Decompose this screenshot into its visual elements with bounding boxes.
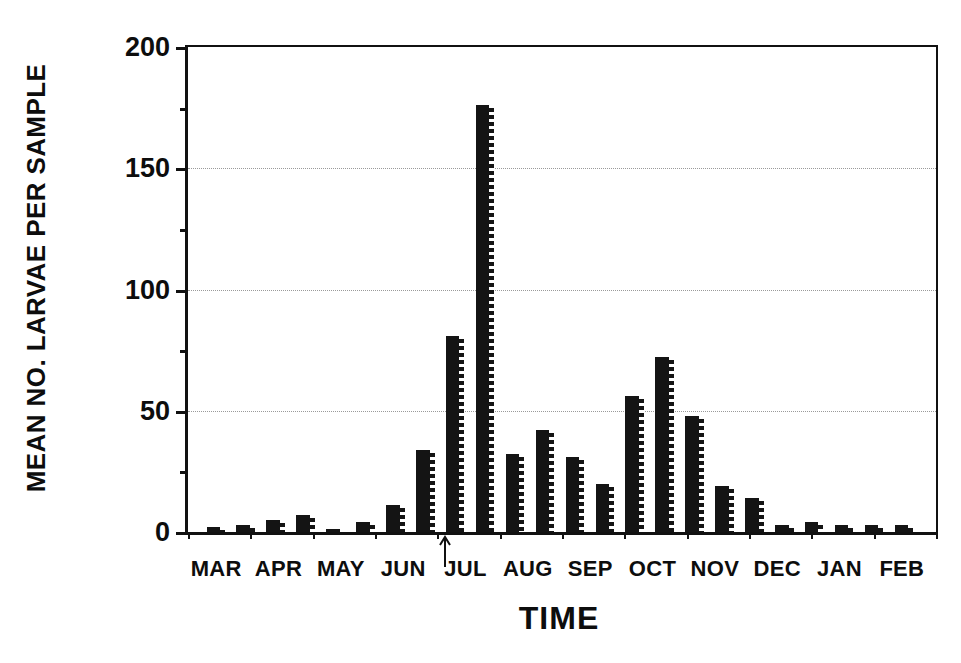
x-tick-label-nov: NOV: [691, 556, 740, 582]
bar-bevel: [818, 522, 823, 532]
bar-bevel: [669, 357, 674, 532]
x-tick-label-aug: AUG: [503, 556, 553, 582]
x-tick-label-sep: SEP: [568, 556, 613, 582]
bar: [476, 105, 495, 532]
y-tick-mark: [176, 290, 188, 293]
y-tick-mark: [176, 168, 188, 171]
x-tick-label-oct: OCT: [629, 556, 676, 582]
bar: [386, 505, 405, 532]
bar-bevel: [908, 525, 913, 532]
y-tick-mark-minor: [180, 108, 188, 111]
x-tick-mark: [811, 532, 813, 539]
bar: [326, 529, 345, 532]
y-tick-label: 50: [140, 395, 170, 426]
y-tick-label: 100: [125, 274, 170, 305]
bar: [236, 525, 255, 532]
bar: [715, 486, 734, 532]
x-tick-mark: [250, 532, 252, 539]
x-tick-mark: [500, 532, 502, 539]
y-tick-mark: [176, 411, 188, 414]
x-tick-mark: [874, 532, 876, 539]
y-tick-label: 0: [155, 517, 170, 548]
y-tick-label: 150: [125, 153, 170, 184]
x-tick-mark: [562, 532, 564, 539]
bar-bevel: [250, 525, 255, 532]
y-axis-title: MEAN NO. LARVAE PER SAMPLE: [14, 8, 58, 548]
bar: [296, 515, 315, 532]
bar: [446, 336, 465, 532]
x-tick-label-jul: JUL: [444, 556, 486, 582]
bar-bevel: [639, 396, 644, 532]
y-tick-mark: [176, 532, 188, 535]
x-tick-label-jun: JUN: [381, 556, 426, 582]
bar-bevel: [759, 498, 764, 532]
bar-bevel: [459, 336, 464, 532]
y-tick-mark-minor: [180, 471, 188, 474]
bar-bevel: [609, 484, 614, 533]
x-tick-mark: [749, 532, 751, 539]
x-tick-mark: [188, 532, 190, 539]
bar-bevel: [549, 430, 554, 532]
bar: [895, 525, 914, 532]
x-axis-tick-labels: MARAPRMAYJUNJULAUGSEPOCTNOVDECJANFEB: [185, 556, 933, 590]
bar-bevel: [400, 505, 405, 532]
bar: [566, 457, 585, 532]
bar-bevel: [430, 450, 435, 532]
bar: [356, 522, 375, 532]
bar-bevel: [579, 457, 584, 532]
x-tick-mark: [687, 532, 689, 539]
bar: [266, 520, 285, 532]
x-tick-mark: [936, 532, 938, 539]
x-tick-label-may: MAY: [317, 556, 365, 582]
bar-bevel: [699, 416, 704, 532]
bar: [596, 484, 615, 533]
bar-bevel: [729, 486, 734, 532]
x-tick-label-dec: DEC: [753, 556, 800, 582]
bar-series: [188, 47, 936, 532]
y-tick-mark-minor: [180, 229, 188, 232]
bar: [865, 525, 884, 532]
chart-figure: MEAN NO. LARVAE PER SAMPLE 050100150200 …: [0, 0, 961, 663]
bar-bevel: [489, 105, 494, 532]
bar: [536, 430, 555, 532]
y-tick-label: 200: [125, 32, 170, 63]
x-tick-label-feb: FEB: [879, 556, 924, 582]
bar-bevel: [878, 525, 883, 532]
x-tick-mark: [624, 532, 626, 539]
x-tick-mark: [313, 532, 315, 539]
bar: [506, 454, 525, 532]
y-tick-mark: [176, 47, 188, 50]
x-tick-mark: [375, 532, 377, 539]
y-tick-mark-minor: [180, 350, 188, 353]
bar-bevel: [280, 520, 285, 532]
bar: [775, 525, 794, 532]
bar-bevel: [340, 529, 345, 532]
bar: [685, 416, 704, 532]
x-tick-label-mar: MAR: [191, 556, 242, 582]
plot-area: 050100150200: [185, 45, 938, 535]
bar-bevel: [220, 527, 225, 532]
bar-bevel: [310, 515, 315, 532]
x-tick-label-apr: APR: [255, 556, 302, 582]
bar: [655, 357, 674, 532]
bar: [416, 450, 435, 532]
bar: [835, 525, 854, 532]
bar-bevel: [848, 525, 853, 532]
x-axis-title: TIME: [185, 600, 933, 637]
bar-bevel: [789, 525, 794, 532]
bar: [625, 396, 644, 532]
bar: [745, 498, 764, 532]
bar-bevel: [519, 454, 524, 532]
bar: [207, 527, 226, 532]
x-tick-label-jan: JAN: [817, 556, 862, 582]
bar: [805, 522, 824, 532]
bar-bevel: [370, 522, 375, 532]
